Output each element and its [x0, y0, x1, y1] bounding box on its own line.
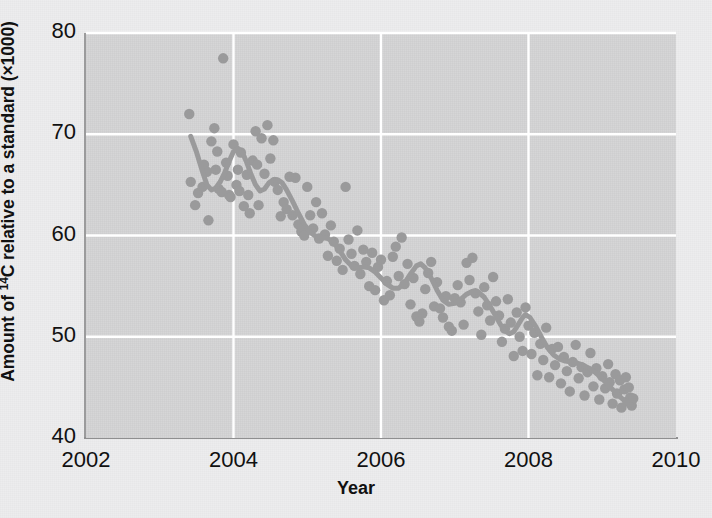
y-tick-label-70: 70 [30, 119, 76, 145]
x-tick-label-2006: 2006 [336, 447, 426, 473]
y-axis-title-pre: Amount of [0, 290, 18, 381]
x-tick-label-2008: 2008 [484, 447, 574, 473]
figure-canvas: Amount of 14C relative to a standard (×1… [0, 0, 712, 518]
plot-area [86, 33, 676, 438]
x-tick-label-2002: 2002 [41, 447, 131, 473]
y-axis-title-superscript: 14 [0, 277, 11, 290]
y-tick-label-50: 50 [30, 322, 76, 348]
x-tick-label-2010: 2010 [631, 447, 712, 473]
y-tick-label-80: 80 [30, 18, 76, 44]
x-tick-label-2004: 2004 [189, 447, 279, 473]
y-tick-label-60: 60 [30, 221, 76, 247]
y-tick-label-40: 40 [30, 423, 76, 449]
y-axis-title-post: C relative to a standard (×1000) [0, 21, 18, 277]
x-axis-title: Year [0, 478, 712, 499]
data-layer [86, 33, 676, 438]
y-axis-title: Amount of 14C relative to a standard (×1… [0, 0, 19, 421]
